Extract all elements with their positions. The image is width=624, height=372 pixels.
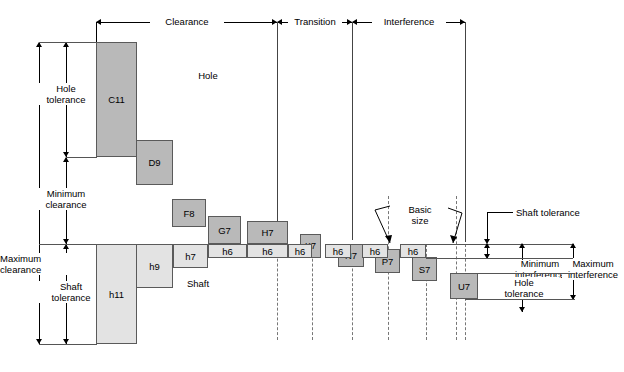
region-label-interference: Interference	[372, 16, 446, 27]
min-interference-top-arrow	[484, 243, 490, 248]
right-label-shaft-tolerance: Shaft tolerance	[516, 207, 596, 218]
ext-line-shaft-bottom	[39, 344, 97, 345]
boundary-transition-interference	[352, 22, 353, 240]
dashed-boundary-2	[312, 244, 313, 340]
region-label-transition: Transition	[288, 16, 342, 27]
basic-size-label: Basic size	[397, 204, 443, 226]
right-shaft-tolerance-leader	[487, 212, 513, 213]
shaft-zone-label: h6	[222, 246, 233, 257]
hole-zone-label: S7	[419, 264, 431, 275]
shaft-zone-label: h6	[333, 246, 344, 257]
shaft-zone-label: h6	[370, 246, 381, 257]
basic-size-zero-line	[426, 244, 573, 245]
shaft-zone-label: h9	[149, 261, 160, 272]
shaft-zone-h6-1[interactable]: h6	[208, 244, 247, 258]
hole-zone-label: H7	[261, 227, 273, 238]
shaft-zone-h6-2[interactable]: h6	[247, 244, 288, 258]
hole-zone-H7[interactable]: H7	[247, 221, 288, 244]
hole-zone-label: D9	[148, 157, 160, 168]
shaft-zone-label: h7	[185, 251, 196, 262]
left-label-maximum-clearance: Maximum clearance	[0, 253, 78, 275]
shaft-zone-h11[interactable]: h11	[96, 244, 137, 344]
hole-zone-U7[interactable]: U7	[450, 273, 478, 299]
dashed-boundary-1	[277, 244, 278, 340]
shaft-zone-label: h6	[262, 246, 273, 257]
shaft-zone-label: h11	[109, 289, 124, 300]
hole-zone-S7[interactable]: S7	[412, 257, 437, 281]
right-hole-tolerance-top-arrow	[519, 243, 525, 248]
shaft-zone-h6-4[interactable]: h6	[325, 244, 351, 258]
ext-line-hole-bottom	[66, 157, 97, 158]
fit-tolerance-diagram: Clearance Transition Interference Hole t…	[0, 0, 624, 372]
ext-right-2	[465, 273, 575, 274]
boundary-clearance-start	[96, 22, 97, 42]
hole-zone-D9[interactable]: D9	[136, 140, 173, 185]
right-hole-tolerance-bottom-arrow	[519, 307, 525, 312]
shaft-zone-h7[interactable]: h7	[173, 244, 208, 268]
right-label-maximum-interference: Maximum interference	[562, 258, 624, 280]
ext-line-shaft-top	[39, 244, 97, 245]
shaft-zone-h6-3[interactable]: h6	[288, 244, 312, 258]
hole-zone-label: G7	[218, 225, 231, 236]
right-shaft-tolerance-line	[487, 212, 488, 240]
area-label-shaft: Shaft	[178, 278, 218, 289]
shaft-zone-h6-5[interactable]: h6	[362, 244, 388, 258]
hole-zone-label: U7	[458, 281, 470, 292]
left-label-minimum-clearance: Minimum clearance	[29, 188, 103, 210]
right-label-hole-tolerance: Hole tolerance	[489, 277, 559, 299]
region-label-clearance: Clearance	[150, 16, 224, 27]
shaft-zone-label: h6	[295, 246, 306, 257]
shaft-zone-h9[interactable]: h9	[136, 244, 173, 288]
hole-zone-label: C11	[108, 94, 125, 105]
hole-zone-label: F8	[183, 208, 194, 219]
boundary-interference-end	[465, 22, 466, 242]
shaft-zone-label: h6	[408, 246, 419, 257]
boundary-clearance-transition	[277, 22, 278, 240]
left-label-hole-tolerance: Hole tolerance	[29, 83, 103, 105]
max-interference-top-arrow	[570, 243, 576, 248]
hole-zone-C11[interactable]: C11	[96, 42, 137, 157]
shaft-lower-line	[426, 258, 486, 259]
area-label-hole: Hole	[188, 70, 228, 81]
hole-zone-G7[interactable]: G7	[208, 216, 241, 244]
dashed-basic-size-right	[456, 196, 457, 340]
ext-right-1	[478, 258, 573, 259]
ext-right-3	[465, 299, 575, 300]
shaft-zone-h6-6[interactable]: h6	[400, 244, 426, 258]
hole-zone-F8[interactable]: F8	[172, 199, 206, 227]
ext-line-hole-top	[39, 42, 96, 43]
